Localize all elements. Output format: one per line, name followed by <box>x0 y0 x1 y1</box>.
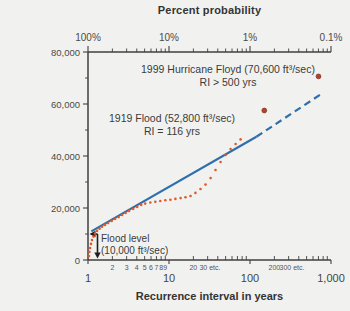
annotation-1919-flood-line1: 1919 Flood (52,800 ft³/sec) <box>72 112 272 125</box>
top-axis-tick-label: 1% <box>243 32 257 43</box>
top-axis-title: Percent probability <box>88 4 331 16</box>
bottom-axis <box>88 256 331 264</box>
annotation-hurricane-floyd-line1: 1999 Hurricane Floyd (70,600 ft³/sec) <box>110 63 346 76</box>
x-axis-major-tick-label: 10 <box>163 272 175 284</box>
trend-line-solid <box>91 137 256 232</box>
annotation-1919-flood: 1919 Flood (52,800 ft³/sec) RI = 116 yrs <box>72 112 272 138</box>
annotation-1919-flood-line2: RI = 116 yrs <box>72 125 272 138</box>
annotation-hurricane-floyd-line2: RI > 500 yrs <box>110 76 346 89</box>
flood-frequency-figure: Percent probability Recurrence interval … <box>0 0 350 311</box>
x-axis-minor-tick-label: 3 <box>125 264 129 271</box>
x-axis-minor-tick-label: 30 etc. <box>199 264 220 271</box>
x-axis-minor-tick-label: 200 <box>269 264 281 271</box>
x-axis-major-tick-label: 1,000 <box>317 272 345 284</box>
annotation-flood-level-line2: (10,000 ft³/sec) <box>101 245 168 257</box>
x-axis-major-tick-label: 1 <box>85 272 91 284</box>
x-axis-title: Recurrence interval in years <box>78 290 341 302</box>
top-axis-tick-label: 100% <box>75 32 101 43</box>
left-axis <box>83 52 88 260</box>
x-axis-minor-tick-label: 7 <box>154 264 158 271</box>
y-axis-tick-label: 20,000 <box>20 203 80 214</box>
annotation-hurricane-floyd: 1999 Hurricane Floyd (70,600 ft³/sec) RI… <box>110 63 346 89</box>
y-axis-tick-label: 80,000 <box>20 47 80 58</box>
annotation-flood-level: Flood level (10,000 ft³/sec) <box>101 233 168 257</box>
x-axis-major-tick-label: 100 <box>241 272 259 284</box>
top-axis-tick-label: 10% <box>159 32 179 43</box>
y-axis-tick-label: 60,000 <box>20 99 80 110</box>
annotation-flood-level-line1: Flood level <box>101 233 168 245</box>
x-axis-minor-tick-label: 20 <box>189 264 197 271</box>
x-axis-minor-tick-label: 2 <box>110 264 114 271</box>
x-axis-minor-tick-label: 300 etc. <box>280 264 305 271</box>
x-axis-minor-tick-label: 9 <box>163 264 167 271</box>
x-axis-minor-tick-label: 6 <box>149 264 153 271</box>
top-axis <box>88 46 331 52</box>
y-axis-tick-label: 0 <box>20 255 80 266</box>
x-axis-minor-tick-label: 5 <box>143 264 147 271</box>
y-axis-tick-label: 40,000 <box>20 151 80 162</box>
x-axis-minor-tick-label: 4 <box>135 264 139 271</box>
top-axis-tick-label: 0.1% <box>320 32 343 43</box>
